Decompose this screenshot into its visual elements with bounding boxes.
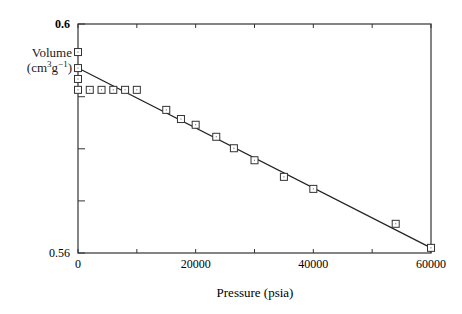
svg-text:0.6: 0.6 (55, 17, 70, 31)
x-tick-labels: 0200004000060000 (75, 257, 446, 271)
svg-text:20000: 20000 (181, 257, 211, 271)
x-axis-title: Pressure (psia) (217, 285, 294, 300)
plot-frame (78, 24, 431, 253)
svg-text:60000: 60000 (416, 257, 446, 271)
y-axis-title: Volume (cm3g−1) (27, 45, 72, 75)
data-points (75, 49, 435, 252)
y-axis-title-line2: (cm3g−1) (27, 60, 72, 75)
axis-ticks (78, 24, 431, 253)
svg-text:0.56: 0.56 (49, 246, 70, 260)
y-axis-title-line1: Volume (27, 45, 72, 60)
svg-text:40000: 40000 (298, 257, 328, 271)
svg-text:0: 0 (75, 257, 81, 271)
